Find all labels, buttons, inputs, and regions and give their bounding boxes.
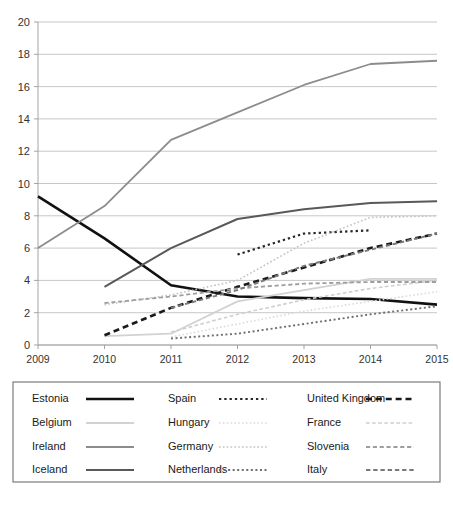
chart-canvas: 02468101214161820 2009201020112012201320… [0,0,453,507]
legend-item-belgium[interactable]: Belgium [32,416,134,428]
xtick-label-2011: 2011 [160,353,183,365]
series-line-united-kingdom [105,234,438,336]
ytick-label-10: 10 [18,178,30,190]
legend-item-ireland[interactable]: Ireland [32,440,134,452]
ytick-label-18: 18 [18,48,30,60]
legend-label-netherlands: Netherlands [168,463,228,475]
legend-label-italy: Italy [307,463,328,475]
series-line-germany [105,216,438,305]
xtick-label-2009: 2009 [26,353,50,365]
legend-item-estonia[interactable]: Estonia [32,392,134,404]
legend-label-belgium: Belgium [32,416,72,428]
ytick-label-14: 14 [18,113,30,125]
legend-item-italy[interactable]: Italy [307,463,414,475]
legend-item-iceland[interactable]: Iceland [32,463,134,475]
xtick-label-2015: 2015 [425,353,449,365]
legend-label-germany: Germany [168,440,214,452]
legend-label-united-kingdom: United Kingdom [307,392,385,404]
ytick-label-16: 16 [18,81,30,93]
ytick-label-12: 12 [18,145,30,157]
line-chart-figure: 02468101214161820 2009201020112012201320… [0,0,453,507]
legend-item-slovenia[interactable]: Slovenia [307,440,414,452]
legend-label-estonia: Estonia [32,392,70,404]
ytick-label-4: 4 [24,274,30,286]
data-series-group [38,61,437,339]
xtick-label-2010: 2010 [93,353,117,365]
legend-label-hungary: Hungary [168,416,210,428]
series-line-italy [171,234,437,308]
ytick-label-6: 6 [24,242,30,254]
legend-label-ireland: Ireland [32,440,66,452]
xtick-label-2012: 2012 [226,353,250,365]
legend-item-spain[interactable]: Spain [168,392,267,404]
chart-legend: EstoniaBelgiumIrelandIcelandSpainHungary… [13,382,440,482]
ytick-label-0: 0 [24,339,30,351]
ytick-label-2: 2 [24,307,30,319]
ytick-label-20: 20 [18,16,30,28]
legend-item-united-kingdom[interactable]: United Kingdom [307,392,414,404]
legend-item-netherlands[interactable]: Netherlands [168,463,267,475]
y-axis-tick-labels: 02468101214161820 [18,16,30,351]
legend-label-slovenia: Slovenia [307,440,350,452]
legend-label-spain: Spain [168,392,196,404]
legend-item-hungary[interactable]: Hungary [168,416,267,428]
legend-label-iceland: Iceland [32,463,67,475]
legend-label-france: France [307,416,341,428]
xtick-label-2013: 2013 [292,353,316,365]
ytick-label-8: 8 [24,210,30,222]
x-axis-tick-labels: 2009201020112012201320142015 [26,353,449,365]
series-line-belgium [105,279,438,336]
xtick-label-2014: 2014 [359,353,383,365]
legend-item-germany[interactable]: Germany [168,440,267,452]
legend-item-france[interactable]: France [307,416,414,428]
